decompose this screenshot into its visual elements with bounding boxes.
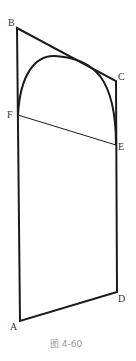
label-A: A bbox=[10, 321, 18, 332]
label-D: D bbox=[118, 293, 125, 304]
arc-FE bbox=[18, 56, 116, 145]
segment-FE bbox=[18, 115, 116, 145]
geometry-diagram: B C F E D A 图 4-60 bbox=[0, 0, 136, 361]
label-F: F bbox=[7, 109, 13, 120]
label-C: C bbox=[118, 71, 125, 82]
figure-caption: 图 4-60 bbox=[50, 339, 83, 349]
label-B: B bbox=[8, 17, 15, 28]
label-E: E bbox=[118, 141, 124, 152]
quadrilateral-ABCD bbox=[17, 28, 117, 321]
